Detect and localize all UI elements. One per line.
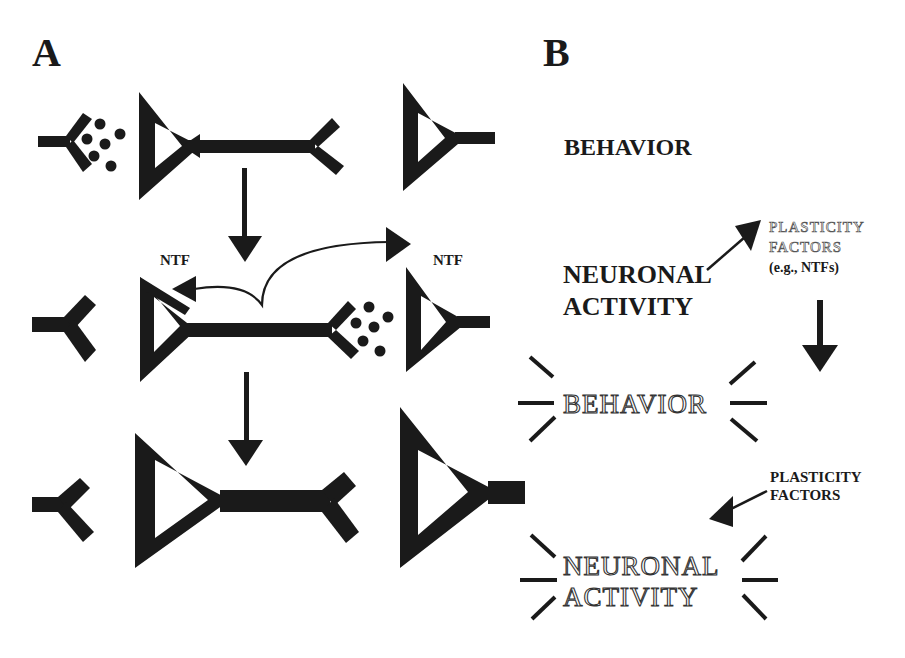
row1-neuron-center: [139, 92, 344, 200]
row2-vesicles: [351, 302, 394, 357]
diagram-canvas: A NTF NTF: [0, 0, 905, 658]
arrow-to-plasticity-factors: [707, 220, 761, 270]
panel-b-label: B: [543, 30, 570, 75]
arrow-from-plasticity-factors: [709, 491, 767, 527]
arrow-down-1: [228, 168, 262, 262]
plasticity-factors-top-line1: PLASTICITY: [769, 219, 865, 235]
ntf-label-right: NTF: [433, 252, 463, 268]
figure: A NTF NTF: [0, 0, 905, 658]
plasticity-factors-top-line2: FACTORS: [769, 239, 842, 255]
neuronal-activity-line2: ACTIVITY: [563, 292, 693, 321]
arrow-down-b: [802, 300, 838, 372]
row3-neuron-right: [400, 407, 525, 568]
activity-outlined-line2: ACTIVITY: [563, 582, 698, 612]
ntf-curved-arrows: [172, 227, 411, 305]
plasticity-factors-top-line3: (e.g., NTFs): [769, 260, 839, 276]
ntf-label-left: NTF: [160, 252, 190, 268]
behavior-label: BEHAVIOR: [564, 134, 692, 160]
neuronal-activity-line1: NEURONAL: [563, 260, 712, 289]
behavior-outlined: BEHAVIOR: [563, 389, 707, 419]
row2-dendrite-left: [32, 295, 96, 362]
plasticity-factors-bottom-line2: FACTORS: [770, 487, 840, 503]
plasticity-factors-bottom-line1: PLASTICITY: [770, 469, 862, 485]
row3-dendrite-left: [32, 478, 94, 542]
arrow-down-2: [228, 372, 263, 466]
row1-neuron-right: [403, 83, 495, 191]
panel-a-label: A: [32, 30, 61, 75]
row2-neuron-right: [406, 267, 490, 372]
neuronal-outlined-line1: NEURONAL: [563, 551, 720, 581]
